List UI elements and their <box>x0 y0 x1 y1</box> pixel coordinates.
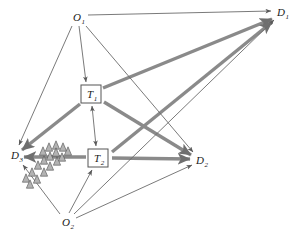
node-t1[interactable]: T1 <box>81 85 101 103</box>
edge-O2-T2 <box>69 170 92 213</box>
node-label-d1: D1 <box>276 6 289 21</box>
edge-T1-T2-bidirectional <box>92 106 96 146</box>
edge-O1-T1 <box>79 26 86 82</box>
node-o1[interactable]: O1 <box>73 11 85 26</box>
edge-O2-D2 <box>76 165 192 218</box>
network-diagram: O1O2T1T2D1D2D3 <box>0 0 300 243</box>
edge-O2-D3 <box>23 165 60 214</box>
diagram-canvas: O1O2T1T2D1D2D3 <box>0 0 300 243</box>
node-t2[interactable]: T2 <box>88 149 108 167</box>
node-d1[interactable]: D1 <box>276 6 289 21</box>
tree-icon <box>45 143 52 151</box>
node-subscript-o2: 2 <box>70 223 74 231</box>
node-label-d2: D2 <box>195 154 208 169</box>
nodes-group: O1O2T1T2D1D2D3 <box>10 6 289 231</box>
node-subscript-t2: 2 <box>101 159 105 167</box>
edge-T1-D3 <box>22 104 80 150</box>
thick-edges-group <box>22 19 272 159</box>
node-label-o1: O1 <box>73 11 85 26</box>
node-subscript-t1: 1 <box>94 95 98 103</box>
edge-O1-D1 <box>88 11 271 15</box>
edge-O2-D1 <box>74 20 274 214</box>
tree-icon <box>59 143 66 151</box>
node-d2[interactable]: D2 <box>195 154 208 169</box>
edge-O1-D3 <box>19 26 72 145</box>
node-subscript-o1: 1 <box>81 18 85 26</box>
node-o2[interactable]: O2 <box>62 216 74 231</box>
tree-cluster <box>22 141 71 188</box>
edge-T2-D1 <box>112 22 272 152</box>
edge-T2-D2 <box>112 158 190 159</box>
edge-T1-D1 <box>103 19 272 88</box>
edge-O1-D2 <box>86 26 193 152</box>
tree-icon <box>34 161 41 169</box>
node-d3[interactable]: D3 <box>10 149 23 164</box>
node-label-d3: D3 <box>10 149 23 164</box>
node-subscript-d1: 1 <box>285 13 289 21</box>
node-subscript-d2: 2 <box>204 161 208 169</box>
node-subscript-d3: 3 <box>18 156 23 164</box>
tree-icon <box>46 162 53 170</box>
node-label-o2: O2 <box>62 216 74 231</box>
tree-icon <box>22 174 29 182</box>
thin-edges-group <box>19 11 274 218</box>
